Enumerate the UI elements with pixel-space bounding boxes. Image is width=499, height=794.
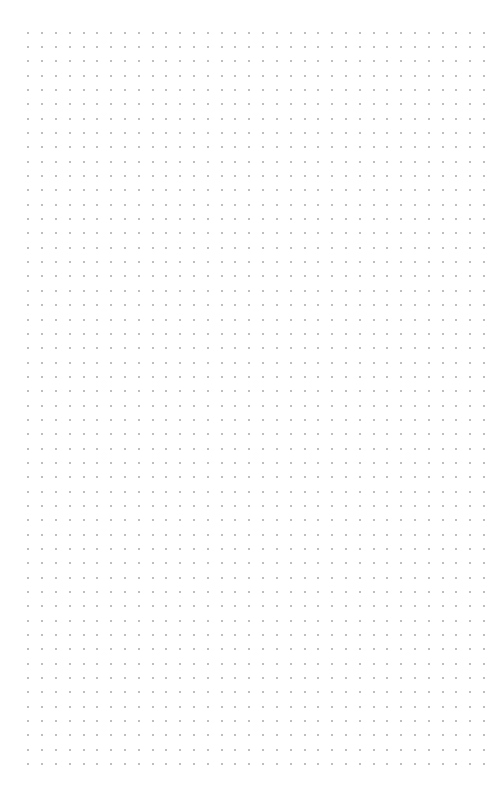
grid-dot — [248, 161, 250, 163]
grid-dot — [110, 505, 112, 507]
grid-dot — [373, 347, 375, 349]
grid-dot — [414, 175, 416, 177]
grid-dot — [193, 319, 195, 321]
grid-dot — [442, 677, 444, 679]
grid-dot — [373, 146, 375, 148]
grid-dot — [110, 605, 112, 607]
grid-dot — [138, 118, 140, 120]
grid-dot — [110, 362, 112, 364]
grid-dot — [41, 462, 43, 464]
grid-dot — [248, 548, 250, 550]
grid-dot — [386, 405, 388, 407]
grid-dot — [124, 648, 126, 650]
grid-dot — [414, 204, 416, 206]
grid-dot — [152, 491, 154, 493]
grid-dot — [455, 677, 457, 679]
grid-dot — [207, 749, 209, 751]
grid-dot — [331, 103, 333, 105]
grid-dot — [331, 175, 333, 177]
grid-dot — [469, 620, 471, 622]
grid-dot — [262, 362, 264, 364]
grid-dot — [469, 232, 471, 234]
grid-dot — [41, 376, 43, 378]
grid-dot — [304, 204, 306, 206]
grid-dot — [234, 634, 236, 636]
grid-dot — [483, 247, 485, 249]
grid-dot — [262, 175, 264, 177]
grid-dot — [345, 175, 347, 177]
grid-dot — [290, 32, 292, 34]
grid-dot — [331, 634, 333, 636]
grid-dot — [138, 763, 140, 765]
grid-dot — [55, 103, 57, 105]
grid-dot — [248, 677, 250, 679]
grid-dot — [83, 32, 85, 34]
grid-dot — [400, 677, 402, 679]
grid-dot — [234, 118, 236, 120]
grid-dot — [428, 706, 430, 708]
grid-dot — [55, 362, 57, 364]
grid-dot — [41, 534, 43, 536]
grid-dot — [317, 60, 319, 62]
grid-dot — [27, 232, 29, 234]
grid-dot — [207, 405, 209, 407]
grid-dot — [248, 362, 250, 364]
grid-dot — [248, 476, 250, 478]
grid-dot — [442, 275, 444, 277]
grid-dot — [179, 204, 181, 206]
grid-dot — [193, 562, 195, 564]
grid-dot — [359, 734, 361, 736]
grid-dot — [165, 60, 167, 62]
grid-dot — [207, 706, 209, 708]
grid-dot — [248, 319, 250, 321]
grid-dot — [207, 720, 209, 722]
grid-dot — [41, 189, 43, 191]
grid-dot — [345, 189, 347, 191]
grid-dot — [414, 462, 416, 464]
grid-dot — [304, 60, 306, 62]
grid-dot — [455, 261, 457, 263]
grid-dot — [483, 562, 485, 564]
grid-dot — [138, 505, 140, 507]
grid-dot — [483, 634, 485, 636]
grid-dot — [124, 390, 126, 392]
grid-dot — [221, 362, 223, 364]
grid-dot — [386, 275, 388, 277]
grid-dot — [55, 275, 57, 277]
grid-dot — [373, 275, 375, 277]
grid-dot — [373, 319, 375, 321]
grid-dot — [276, 749, 278, 751]
grid-dot — [414, 491, 416, 493]
grid-dot — [304, 491, 306, 493]
grid-dot — [152, 161, 154, 163]
grid-dot — [262, 519, 264, 521]
grid-dot — [234, 691, 236, 693]
grid-dot — [152, 405, 154, 407]
grid-dot — [207, 591, 209, 593]
grid-dot — [165, 634, 167, 636]
grid-dot — [152, 247, 154, 249]
grid-dot — [262, 32, 264, 34]
grid-dot — [41, 405, 43, 407]
grid-dot — [414, 648, 416, 650]
grid-dot — [345, 247, 347, 249]
grid-dot — [83, 304, 85, 306]
grid-dot — [442, 146, 444, 148]
grid-dot — [359, 448, 361, 450]
grid-dot — [110, 734, 112, 736]
grid-dot — [234, 319, 236, 321]
grid-dot — [345, 749, 347, 751]
grid-dot — [138, 648, 140, 650]
grid-dot — [96, 261, 98, 263]
grid-dot — [179, 103, 181, 105]
grid-dot — [455, 362, 457, 364]
grid-dot — [193, 663, 195, 665]
grid-dot — [248, 261, 250, 263]
grid-dot — [27, 634, 29, 636]
grid-dot — [345, 132, 347, 134]
grid-dot — [483, 620, 485, 622]
grid-dot — [110, 32, 112, 34]
grid-dot — [414, 46, 416, 48]
grid-dot — [96, 763, 98, 765]
grid-dot — [373, 534, 375, 536]
